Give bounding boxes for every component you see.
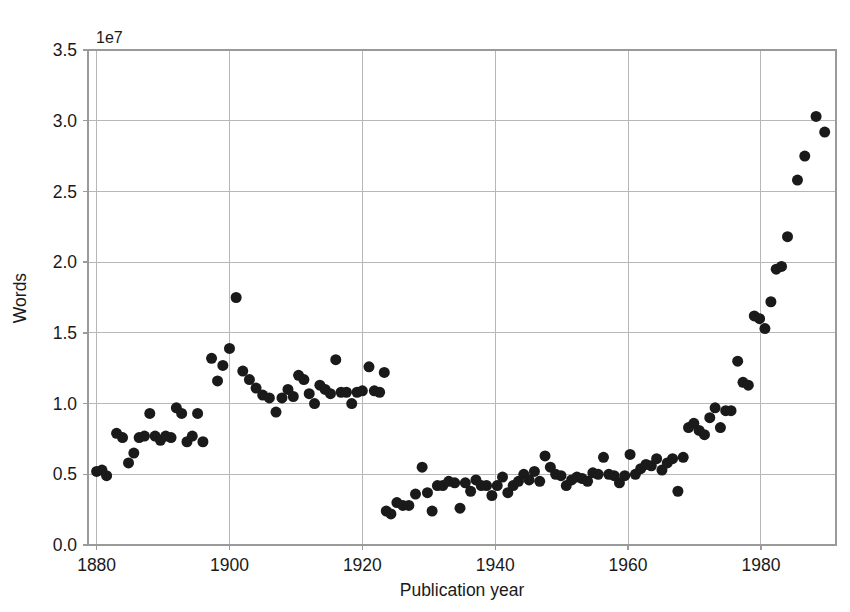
data-point — [357, 385, 368, 396]
data-point — [726, 405, 737, 416]
data-point — [410, 489, 421, 500]
data-point — [422, 487, 433, 498]
data-point — [754, 313, 765, 324]
data-point — [678, 452, 689, 463]
data-point — [593, 469, 604, 480]
y-tick-label: 3.0 — [53, 111, 78, 131]
scatter-chart-figure: 188019001920194019601980 0.00.51.01.52.0… — [0, 0, 850, 612]
data-point — [217, 360, 228, 371]
data-point — [699, 429, 710, 440]
data-point — [625, 449, 636, 460]
data-point — [417, 462, 428, 473]
data-point — [743, 380, 754, 391]
data-point — [117, 432, 128, 443]
data-point — [619, 470, 630, 481]
data-point — [732, 356, 743, 367]
data-point — [555, 470, 566, 481]
data-point — [465, 486, 476, 497]
data-point — [486, 490, 497, 501]
data-point — [667, 453, 678, 464]
y-axis-label: Words — [10, 273, 30, 323]
data-point — [197, 436, 208, 447]
data-point — [101, 470, 112, 481]
data-point — [270, 407, 281, 418]
x-tick-label: 1900 — [210, 555, 249, 575]
data-point — [765, 296, 776, 307]
data-point — [298, 374, 309, 385]
data-point — [497, 472, 508, 483]
y-tick-label: 0.0 — [53, 535, 78, 555]
chart-canvas: 188019001920194019601980 0.00.51.01.52.0… — [0, 0, 850, 612]
data-point — [776, 261, 787, 272]
data-point — [449, 477, 460, 488]
data-point — [811, 111, 822, 122]
data-point — [224, 343, 235, 354]
data-point — [309, 398, 320, 409]
y-tick-label: 2.5 — [53, 182, 77, 202]
data-point — [759, 323, 770, 334]
data-point — [341, 387, 352, 398]
x-tick-label: 1880 — [77, 555, 116, 575]
data-point — [231, 292, 242, 303]
data-point — [144, 408, 155, 419]
data-point — [385, 508, 396, 519]
y-axis-offset-label: 1e7 — [96, 29, 123, 46]
data-point — [288, 391, 299, 402]
data-point — [187, 431, 198, 442]
data-point — [403, 500, 414, 511]
x-tick-label: 1920 — [343, 555, 382, 575]
x-axis-label: Publication year — [400, 580, 525, 600]
x-tick-label: 1980 — [741, 555, 780, 575]
data-point — [534, 476, 545, 487]
data-point — [715, 422, 726, 433]
data-point — [540, 450, 551, 461]
data-point — [529, 466, 540, 477]
data-point — [139, 431, 150, 442]
data-point — [379, 367, 390, 378]
data-point — [651, 453, 662, 464]
data-point — [481, 480, 492, 491]
data-point — [264, 392, 275, 403]
data-point — [704, 412, 715, 423]
data-point — [304, 388, 315, 399]
data-point — [792, 175, 803, 186]
data-point — [330, 354, 341, 365]
data-point — [176, 408, 187, 419]
data-point — [206, 353, 217, 364]
y-tick-label: 0.5 — [53, 464, 77, 484]
y-tick-label: 1.0 — [53, 394, 78, 414]
data-point — [123, 457, 134, 468]
x-tick-label: 1940 — [476, 555, 515, 575]
data-point — [374, 387, 385, 398]
y-tick-label: 1.5 — [53, 323, 77, 343]
data-point — [710, 402, 721, 413]
y-tick-label: 3.5 — [53, 40, 77, 60]
data-point — [799, 151, 810, 162]
x-tick-label: 1960 — [609, 555, 648, 575]
data-point — [455, 503, 466, 514]
data-point — [212, 375, 223, 386]
data-point — [819, 127, 830, 138]
y-tick-label: 2.0 — [53, 252, 78, 272]
data-point — [672, 486, 683, 497]
data-point — [325, 388, 336, 399]
data-point — [192, 408, 203, 419]
data-point — [427, 506, 438, 517]
data-point — [128, 448, 139, 459]
data-point — [346, 398, 357, 409]
data-point — [598, 452, 609, 463]
data-point — [782, 231, 793, 242]
data-point — [166, 432, 177, 443]
data-point — [363, 361, 374, 372]
chart-background — [0, 0, 850, 612]
